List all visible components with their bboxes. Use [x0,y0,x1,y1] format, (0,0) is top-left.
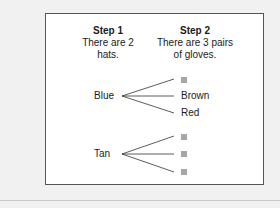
tree-branches [46,14,265,186]
divider [0,200,280,201]
blank-glove-square [181,77,187,83]
blank-glove-square [181,151,187,157]
hat-blue: Blue [94,90,114,102]
blank-glove-square [181,134,187,140]
blank-glove-square [181,169,187,175]
glove-red: Red [181,107,199,119]
glove-brown: Brown [181,90,209,102]
tree-diagram-box: Step 1 There are 2 hats. Step 2 There ar… [45,13,264,185]
hat-tan: Tan [94,148,110,160]
